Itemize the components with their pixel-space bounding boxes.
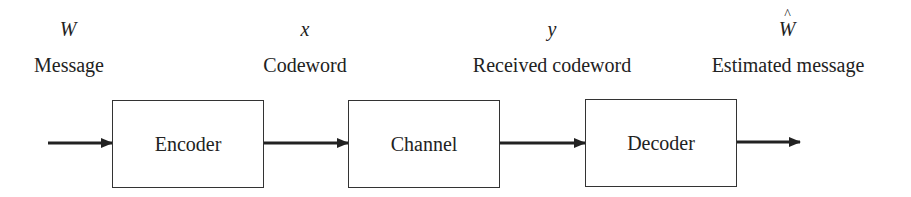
channel-block: Channel	[348, 100, 500, 188]
decoder-label: Decoder	[627, 132, 695, 155]
decoder-block: Decoder	[585, 99, 737, 187]
encoder-block: Encoder	[112, 100, 264, 188]
encoder-label: Encoder	[155, 133, 222, 156]
channel-label: Channel	[391, 133, 458, 156]
